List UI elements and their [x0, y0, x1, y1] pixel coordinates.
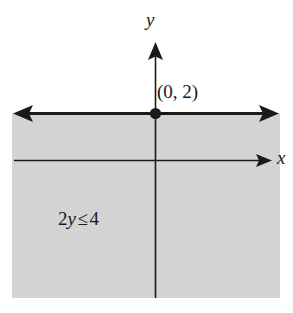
shaded-solution-region [12, 113, 280, 298]
inequality-label: 2y ≤ 4 [58, 209, 99, 228]
inequality-coefficient: 2 [58, 208, 68, 229]
y-axis-label: y [146, 10, 154, 29]
graph-canvas [0, 0, 293, 313]
y-intercept-label: (0, 2) [157, 82, 198, 101]
inequality-graph-figure: y x (0, 2) 2y ≤ 4 [0, 0, 293, 313]
x-axis-label: x [277, 148, 285, 167]
y-intercept-point [150, 108, 161, 119]
inequality-relation: ≤ [78, 208, 88, 229]
inequality-variable: y [68, 208, 76, 229]
inequality-constant: 4 [90, 208, 100, 229]
